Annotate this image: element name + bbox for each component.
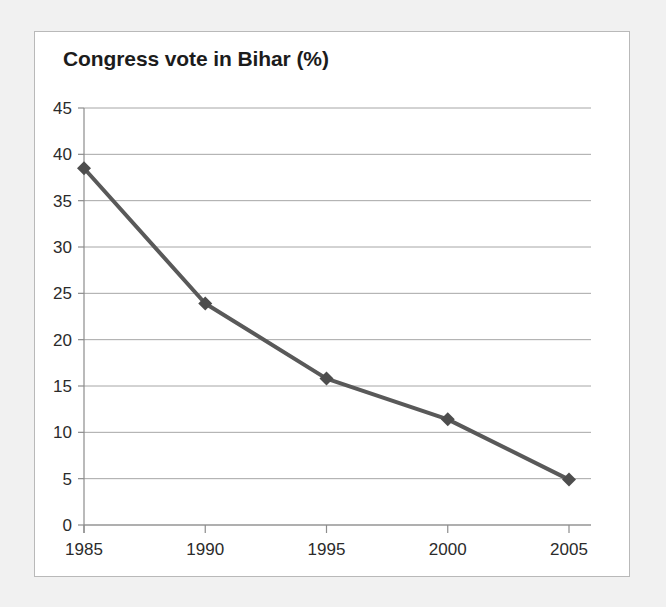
x-axis [84,525,591,533]
y-tick-labels: 051015202530354045 [53,99,72,535]
y-tick-label: 0 [63,516,72,535]
y-tick-label: 10 [53,423,72,442]
y-tick-label: 5 [63,470,72,489]
y-tick-label: 40 [53,145,72,164]
plot-area: 051015202530354045 19851990199520002005 [35,32,631,578]
x-tick-label: 1995 [308,540,346,559]
x-tick-label: 2005 [550,540,588,559]
data-point-marker [441,412,455,426]
x-tick-labels: 19851990199520002005 [65,540,588,559]
series-line [84,168,569,479]
y-tick-label: 35 [53,192,72,211]
data-point-marker [562,473,576,487]
data-series-line [84,168,569,479]
data-series-markers [77,161,576,486]
x-tick-label: 1985 [65,540,103,559]
y-tick-label: 15 [53,377,72,396]
line-chart-svg: 051015202530354045 19851990199520002005 [35,32,631,578]
y-tick-label: 25 [53,284,72,303]
chart-page: Congress vote in Bihar (%) 0510152025303… [0,0,666,607]
y-tick-label: 20 [53,331,72,350]
y-tick-label: 45 [53,99,72,118]
y-tick-label: 30 [53,238,72,257]
x-tick-label: 1990 [186,540,224,559]
chart-frame: Congress vote in Bihar (%) 0510152025303… [34,31,630,577]
gridlines-group [84,108,591,525]
x-tick-label: 2000 [429,540,467,559]
